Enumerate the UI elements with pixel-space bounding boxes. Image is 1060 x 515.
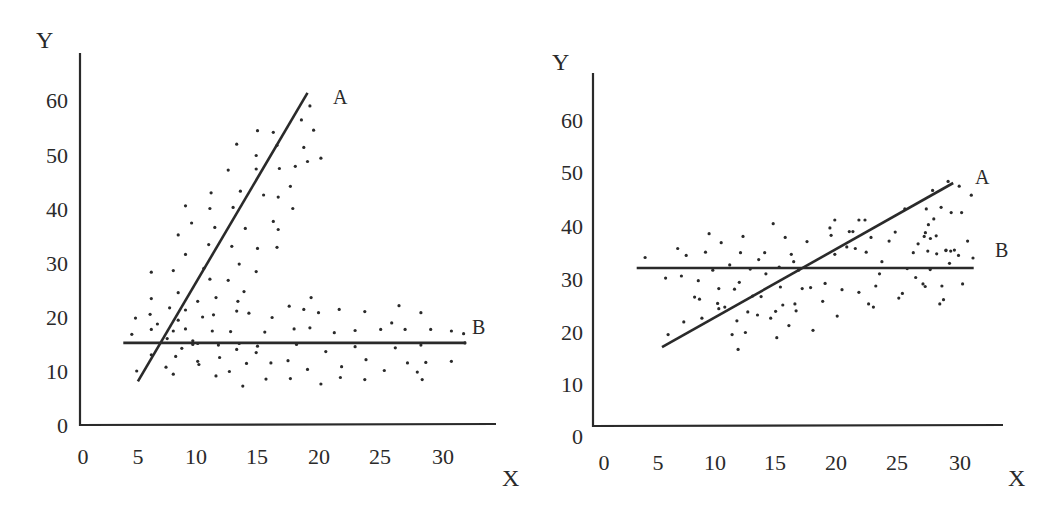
data-point (130, 333, 133, 336)
data-point (970, 194, 973, 197)
data-point (213, 226, 216, 229)
data-point (255, 154, 258, 157)
data-point (925, 207, 928, 210)
data-point (168, 306, 171, 309)
data-point (319, 382, 322, 385)
data-point (214, 296, 217, 299)
right-y-tick: 10 (561, 372, 583, 397)
data-point (172, 329, 175, 332)
data-point (833, 253, 836, 256)
data-point (878, 272, 881, 275)
data-point (214, 374, 217, 377)
data-point (971, 256, 974, 259)
data-point (723, 306, 726, 309)
data-point (201, 315, 204, 318)
data-point (289, 185, 292, 188)
data-point (763, 251, 766, 254)
data-point (739, 251, 742, 254)
data-point (244, 227, 247, 230)
data-point (809, 286, 812, 289)
data-point (828, 226, 831, 229)
data-point (235, 310, 238, 313)
data-point (462, 332, 465, 335)
data-point (184, 204, 187, 207)
left-line-b-label: B (472, 316, 485, 338)
data-point (735, 319, 738, 322)
data-point (924, 231, 927, 234)
data-point (239, 190, 242, 193)
data-point (792, 260, 795, 263)
data-point (700, 317, 703, 320)
data-point (172, 269, 175, 272)
data-point (177, 319, 180, 322)
data-point (394, 346, 397, 349)
data-point (156, 322, 159, 325)
data-point (293, 327, 296, 330)
data-point (150, 297, 153, 300)
data-point (644, 256, 647, 259)
data-point (354, 329, 357, 332)
data-point (207, 243, 210, 246)
data-point (744, 331, 747, 334)
data-point (196, 300, 199, 303)
data-point (150, 328, 153, 331)
right-x-tick: 5 (653, 450, 664, 475)
data-point (310, 296, 313, 299)
data-point (821, 300, 824, 303)
data-point (317, 311, 320, 314)
data-point (306, 160, 309, 163)
data-point (255, 167, 258, 170)
data-point (680, 274, 683, 277)
data-point (406, 361, 409, 364)
data-point (720, 241, 723, 244)
left-x-axis-title: X (502, 465, 519, 491)
data-point (840, 288, 843, 291)
data-point (324, 350, 327, 353)
data-point (760, 295, 763, 298)
data-point (227, 279, 230, 282)
right-line-a-label: A (975, 166, 990, 188)
data-point (242, 290, 245, 293)
data-point (787, 324, 790, 327)
data-point (867, 302, 870, 305)
data-point (717, 307, 720, 310)
data-point (957, 254, 960, 257)
data-point (150, 271, 153, 274)
data-point (339, 376, 342, 379)
data-point (275, 246, 278, 249)
data-point (775, 336, 778, 339)
data-point (845, 245, 848, 248)
data-point (717, 287, 720, 290)
right-y-tick: 50 (561, 160, 583, 185)
data-point (921, 282, 924, 285)
data-point (733, 288, 736, 291)
data-point (196, 360, 199, 363)
right-x-tick: 10 (704, 450, 726, 475)
data-point (927, 223, 930, 226)
left-y-tick: 20 (46, 305, 68, 330)
data-point (300, 118, 303, 121)
data-point (354, 345, 357, 348)
data-point (872, 306, 875, 309)
data-point (682, 320, 685, 323)
right-x-tick: 15 (764, 450, 786, 475)
data-point (149, 313, 152, 316)
data-point (685, 254, 688, 257)
data-point (961, 282, 964, 285)
data-point (880, 260, 883, 263)
data-point (235, 348, 238, 351)
right-y-tick: 0 (572, 424, 583, 449)
right-x-tick: 25 (886, 450, 908, 475)
data-point (664, 277, 667, 280)
data-point (333, 331, 336, 334)
data-point (278, 167, 281, 170)
data-point (781, 303, 784, 306)
data-point (774, 310, 777, 313)
data-point (667, 333, 670, 336)
data-point (949, 250, 952, 253)
right-y-tick: 40 (561, 214, 583, 239)
data-point (424, 361, 427, 364)
right-y-tick: 20 (561, 320, 583, 345)
data-point (931, 189, 934, 192)
right-x-tick: 20 (825, 450, 847, 475)
